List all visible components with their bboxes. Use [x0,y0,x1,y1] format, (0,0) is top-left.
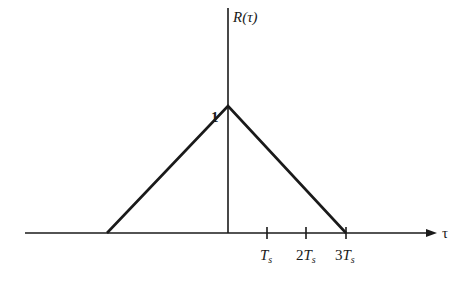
triangle-function-curve [107,106,346,233]
autocorrelation-diagram: R(τ) 1 τ Ts 2Ts 3Ts [0,0,473,288]
tick-label-ts: Ts [260,247,272,265]
y-axis-label: R(τ) [232,9,258,26]
tick-label-2ts: 2Ts [296,247,316,265]
peak-label: 1 [211,109,219,125]
x-axis-label: τ [442,225,448,241]
tick-label-3ts: 3Ts [335,247,355,265]
x-axis-arrow-icon [426,229,437,237]
